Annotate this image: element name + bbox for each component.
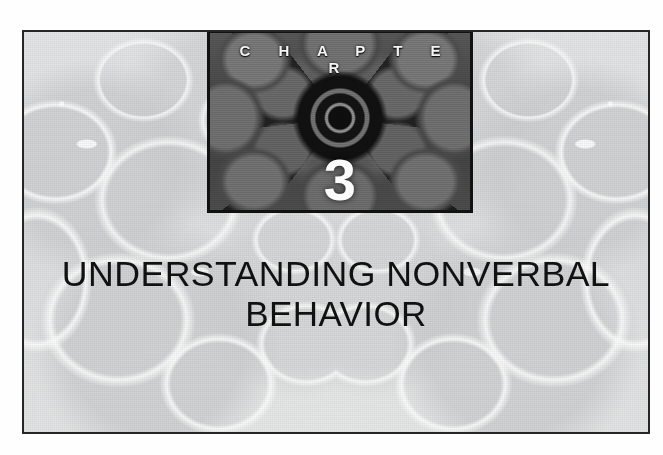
chapter-artwork-box: C H A P T E R 3 bbox=[207, 30, 473, 213]
chapter-label: C H A P T E R bbox=[210, 42, 470, 76]
chapter-title: UNDERSTANDING NONVERBAL BEHAVIOR bbox=[24, 254, 648, 334]
chapter-title-line-1: UNDERSTANDING NONVERBAL bbox=[22, 254, 650, 294]
chapter-opening-page: C H A P T E R 3 UNDERSTANDING NONVERBAL … bbox=[0, 0, 663, 455]
chapter-title-line-2: BEHAVIOR bbox=[24, 294, 648, 334]
bordered-page-plate: C H A P T E R 3 UNDERSTANDING NONVERBAL … bbox=[22, 30, 650, 434]
chapter-number: 3 bbox=[210, 151, 470, 209]
